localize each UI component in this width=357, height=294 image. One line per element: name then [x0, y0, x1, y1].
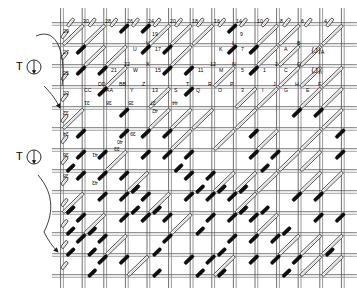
top-number-label: 6 [301, 19, 304, 24]
open-connector [300, 171, 322, 193]
node-label: 36 [63, 152, 69, 157]
open-connector-highlight [280, 236, 298, 254]
open-connector-highlight [172, 26, 190, 44]
node-label: C [284, 68, 288, 73]
open-connector-highlight [323, 89, 341, 107]
open-connector [60, 240, 68, 249]
solid-connector-body [195, 184, 205, 194]
open-connector-highlight [259, 26, 277, 44]
open-connector-highlight [172, 110, 190, 128]
open-connector-highlight [323, 173, 341, 191]
node-label: P [230, 82, 233, 87]
open-connector [60, 219, 68, 228]
node-label: F [318, 82, 321, 87]
open-connector [148, 192, 170, 214]
open-connector [213, 129, 235, 151]
solid-connector [282, 268, 292, 278]
open-connector [127, 255, 149, 277]
open-connector-highlight [172, 47, 190, 65]
circle-with-vertical-line-icon [25, 58, 43, 76]
node-label: Y [130, 88, 133, 93]
open-connector [321, 171, 343, 193]
open-connector-highlight [259, 215, 277, 233]
node-label: 41 [92, 152, 98, 157]
node-label: 27 [63, 50, 69, 55]
node-label: 13 [152, 88, 158, 93]
open-connector-highlight [323, 26, 341, 44]
top-number-label: 16 [214, 19, 220, 24]
open-connector [235, 192, 257, 214]
open-connector [321, 24, 343, 46]
node-label: 44 [172, 100, 178, 105]
open-connector-highlight [237, 89, 255, 107]
node-label: 37 [150, 100, 156, 105]
open-connector-highlight [194, 110, 212, 128]
node-label: M [219, 68, 223, 73]
node-label: T [186, 82, 189, 87]
solid-connector [174, 163, 184, 173]
open-connector [278, 234, 300, 256]
top-number-label: 18 [192, 19, 198, 24]
top-number-label: 30 [83, 19, 89, 24]
node-label: 38 [63, 173, 69, 178]
top-number-label: 24 [148, 19, 154, 24]
top-number-label: 20 [170, 19, 176, 24]
node-label: R [208, 82, 212, 87]
open-connector-highlight [323, 68, 341, 86]
solid-connector [282, 226, 292, 236]
node-label: 35 [128, 100, 134, 105]
node-label: 19 [152, 32, 158, 37]
arrow-lower-curve [38, 175, 51, 232]
solid-connector-body [66, 226, 76, 236]
open-connector [84, 24, 106, 46]
node-label: DD [98, 82, 106, 87]
node-label: 32 [63, 110, 69, 115]
open-connector [170, 108, 192, 130]
node-label: S [174, 88, 177, 93]
open-connector [256, 213, 278, 235]
annotation-J-i: ⟨J⟩i [311, 66, 322, 75]
terminal-arrowhead [31, 160, 36, 163]
node-label: AA [106, 88, 113, 93]
top-number-label: 28 [105, 19, 111, 24]
solid-connector-body [66, 247, 76, 257]
open-connector [256, 87, 278, 109]
node-label: 1 [263, 68, 266, 73]
open-connector-highlight [280, 26, 298, 44]
node-label: Q [297, 62, 301, 67]
open-connector [170, 45, 192, 67]
node-label: X [146, 62, 149, 67]
node-label: J [273, 82, 276, 87]
node-label: 2 [275, 62, 278, 67]
open-connector [60, 198, 68, 207]
arrow-upper-head [44, 86, 60, 108]
node-label: 38 [106, 100, 112, 105]
solid-connector-body [152, 247, 162, 257]
diagonal-connectors [60, 18, 345, 278]
node-label: 17 [155, 47, 161, 52]
open-connector [170, 129, 192, 151]
solid-connector-body [174, 163, 184, 173]
open-connector [321, 87, 343, 109]
open-connector-highlight [172, 215, 190, 233]
solid-connector-body [87, 268, 97, 278]
solid-connector-body [130, 205, 140, 215]
open-connector [235, 108, 257, 130]
solid-connector [152, 247, 162, 257]
open-connector [105, 150, 127, 172]
node-label: W [133, 68, 138, 73]
node-label: 42 [152, 108, 158, 113]
open-connector-highlight [259, 131, 277, 149]
node-label: 9 [240, 32, 243, 37]
open-connector [300, 234, 322, 256]
node-label: I [262, 88, 263, 93]
open-connector [321, 66, 343, 88]
node-label: K [219, 47, 222, 52]
terminal-upper: T [16, 58, 43, 76]
open-connector [170, 24, 192, 46]
open-connector-highlight [280, 47, 298, 65]
annotation-subscript: A [321, 49, 325, 55]
figure-canvas: TT ⟨J⟩A⟨J⟩i 3028262420181614108642919927… [0, 0, 357, 294]
open-connector-highlight [194, 26, 212, 44]
open-connector [84, 45, 106, 67]
